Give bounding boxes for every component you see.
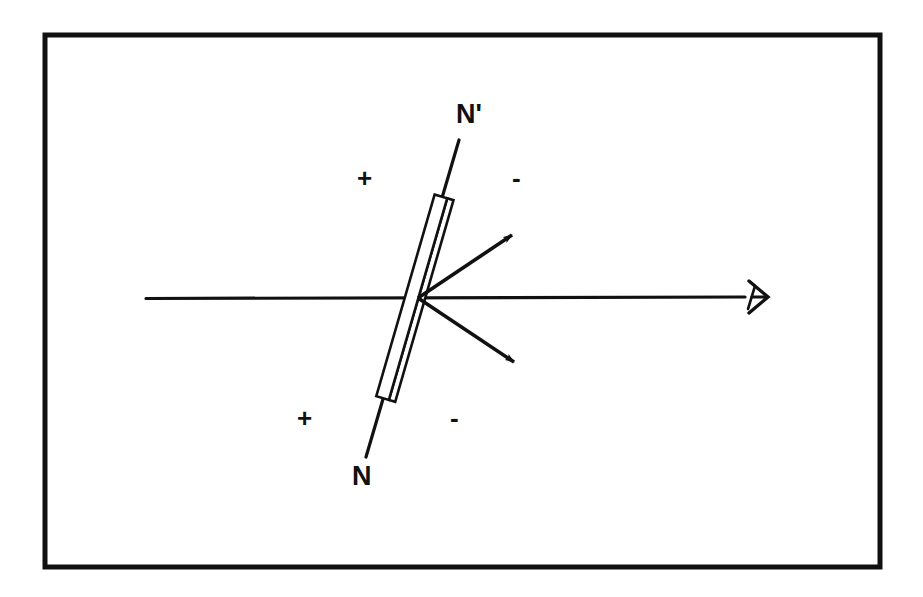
label-plus-upper-left: + [357,165,372,191]
label-plus-lower-left: + [297,405,312,431]
label-north: N [352,463,372,490]
axis-label-A-glyph [748,281,768,313]
diagram-canvas [0,0,923,597]
horizontal-axis-line [146,297,745,299]
deflection-arrow-lower [418,298,514,362]
label-north-prime: N' [456,101,482,128]
label-minus-lower-right: - [450,405,459,431]
label-minus-upper-right: - [512,165,521,191]
figure-container: N' N + - + - [0,0,923,597]
